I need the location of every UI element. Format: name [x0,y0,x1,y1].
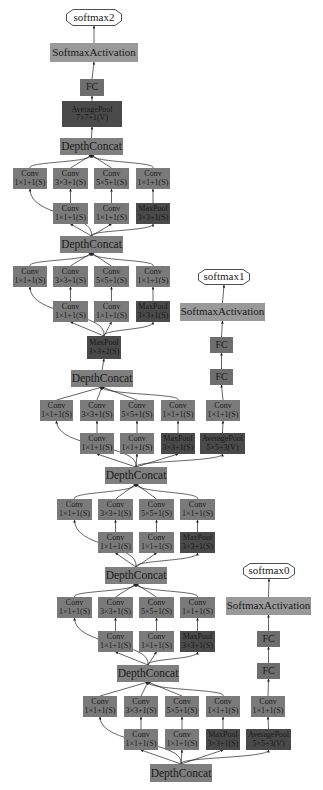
node-title: DepthConcat [151,767,212,779]
edge-c7b-to-dc7 [97,387,102,400]
edge-c7d-to-dc7 [102,387,178,400]
node-params: 1×1+1(S) [141,642,172,650]
edge-c6b-to-dc6 [116,484,137,499]
conv-node-c6d: Conv1×1+1(S) [180,499,215,520]
conv-node-c7b: Conv3×3+1(S) [80,400,114,421]
edge-dc6-to-mp7 [136,454,178,467]
node-params: 1×1+1(S) [167,740,198,748]
node-title: DepthConcat [106,569,167,581]
conv-node-c7c: Conv5×5+1(S) [120,400,154,421]
maxpool-node-mp6: MaxPool3×3+1(S) [180,532,215,553]
node-title: DepthConcat [106,469,167,481]
depth-concat-node-dc8: DepthConcat [60,236,123,253]
conv-node-c9f: Conv1×1+1(S) [94,203,129,224]
node-params: 1×1+1(S) [41,411,72,419]
conv-node-c9e: Conv1×1+1(S) [53,203,88,224]
node-params: 5×5+1(S) [96,277,127,285]
softmax-activation-node-act1: SoftmaxActivation [180,303,265,321]
edge-c9c-to-dc9 [92,155,112,168]
node-params: 3×3+1(S) [182,543,213,551]
node-params: 1×1+1(S) [138,179,169,187]
conv-node-c8d: Conv1×1+1(S) [136,266,170,287]
edge-dc3-to-ap0 [181,750,269,764]
conv-node-c5b: Conv3×3+1(S) [98,597,133,618]
conv-node-c6e: Conv1×1+1(S) [98,532,133,553]
node-params: 1×1+1(S) [59,608,90,616]
edge-c8c-to-dc8 [92,253,112,266]
depth-concat-node-dc6: DepthConcat [105,467,167,484]
edge-c6a-to-dc6 [74,484,136,499]
edge-fc2-to-act2 [92,62,94,79]
conv-node-c6f: Conv1×1+1(S) [139,532,174,553]
edge-ap1-to-c7aux [223,421,224,433]
depth-concat-node-dc7: DepthConcat [71,370,133,387]
node-title: softmax0 [249,565,290,577]
node-title: softmax2 [74,12,115,24]
edge-c5c-to-dc5 [136,584,157,597]
depth-concat-node-dc3: DepthConcat [150,764,212,782]
conv-node-c7aux: Conv1×1+1(S) [206,400,240,421]
edge-dc6-to-c7e [97,454,136,467]
fc-node-fc0b: FC [257,663,280,679]
conv-node-c4aux: Conv1×1+1(S) [251,696,285,717]
conv-node-c4c: Conv5×5+1(S) [165,696,199,717]
node-params: 1×1+1(S) [85,707,116,715]
conv-node-c4f: Conv1×1+1(S) [165,729,199,750]
edge-dc8-to-mp9 [91,224,153,236]
node-params: 1×1+1(S) [182,510,213,518]
conv-node-c6c: Conv5×5+1(S) [139,499,174,520]
node-title: SoftmaxActivation [227,600,311,612]
conv-node-c8a: Conv1×1+1(S) [13,266,47,287]
node-params: 3×3+1(S) [138,312,169,320]
node-title: FC [262,666,274,677]
node-params: 3×3+1(S) [163,444,194,452]
node-title: DepthConcat [118,667,179,679]
fc-node-fc0a: FC [257,631,280,647]
maxpool-node-mp9: MaxPool3×3+1(S) [136,203,170,224]
edge-c9a-to-dc9 [30,155,92,168]
node-params: 1×1+1(S) [100,642,131,650]
node-params: 1×1+1(S) [126,740,157,748]
conv-node-c5d: Conv1×1+1(S) [180,597,215,618]
maxpool-node-mpA: MaxPool3×3+2(S) [87,336,121,359]
node-params: 3×3+1(S) [100,608,131,616]
edge-dc5-to-mp6 [136,553,198,567]
node-params: 3×3+1(S) [182,642,213,650]
edge-c9b-to-dc9 [71,155,92,168]
node-params: 3×3+2(S) [89,348,120,356]
node-params: 5×5+1(S) [96,179,127,187]
node-params: 3×3+1(S) [82,411,113,419]
node-params: 5×5+3(V) [252,740,284,748]
maxpool-node-mp4: MaxPool3×3+1(S) [206,729,240,750]
node-params: 1×1+1(S) [100,543,131,551]
conv-node-c8c: Conv5×5+1(S) [94,266,129,287]
node-params: 1×1+1(S) [253,707,284,715]
node-params: 5×5+1(S) [122,411,153,419]
conv-node-c9c: Conv5×5+1(S) [94,168,129,189]
conv-node-c9a: Conv1×1+1(S) [13,168,47,189]
node-title: FC [215,372,227,383]
conv-node-c6b: Conv3×3+1(S) [98,499,133,520]
node-params: 1×1+1(S) [55,312,86,320]
edge-c5a-to-dc5 [74,584,136,597]
fc-node-fc1b: FC [210,369,233,385]
node-params: 1×1+1(S) [82,444,113,452]
edge-c8a-to-dc8 [30,253,92,266]
edge-c9d-to-dc9 [92,155,154,168]
output-node-softmax0: softmax0 [243,563,295,579]
edge-dc7-to-mpA [102,359,104,370]
edge-c8b-to-dc8 [71,253,92,266]
depth-concat-node-dc4: DepthConcat [117,665,179,682]
node-params: 1×1+1(S) [96,312,127,320]
edge-dc3-to-mp4 [181,750,223,764]
node-params: 1×1+1(S) [208,411,239,419]
edge-dc4-to-c5e [116,652,149,665]
conv-node-c5f: Conv1×1+1(S) [139,631,174,652]
edge-dc5-to-c6f [136,553,157,567]
node-params: 5×5+1(S) [141,608,172,616]
maxpool-node-mp5: MaxPool3×3+1(S) [180,631,215,652]
node-params: 3×3+1(S) [55,179,86,187]
edge-mpA-to-mp8 [104,322,153,336]
edge-c5b-to-dc5 [116,584,137,597]
edge-c7a-to-dc7 [57,387,103,400]
